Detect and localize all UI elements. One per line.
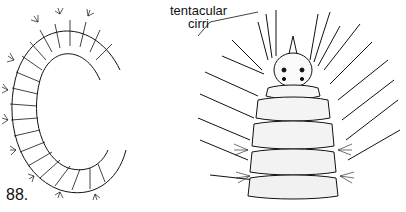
anterior-end-drawing bbox=[198, 10, 400, 199]
label-line-2: cirri bbox=[170, 17, 227, 30]
tentacular-cirri-label: tentacular cirri bbox=[170, 4, 227, 30]
coiled-worm-drawing bbox=[2, 8, 126, 200]
figure-number: 88. bbox=[6, 186, 28, 204]
illustration bbox=[0, 0, 406, 212]
